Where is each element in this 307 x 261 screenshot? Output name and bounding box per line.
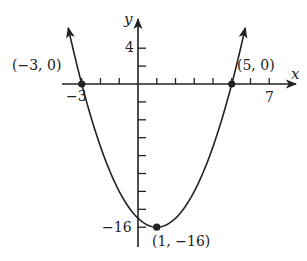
x-axis-ticks <box>82 78 270 84</box>
parabola-curve <box>68 28 245 227</box>
data-point <box>78 80 85 87</box>
y-tick-label-neg16: −16 <box>102 219 132 235</box>
marked-points <box>78 80 235 230</box>
x-tick-label-7: 7 <box>265 89 274 105</box>
point-label-vertex: (1, −16) <box>152 233 210 249</box>
parabola-chart: x y −3 7 4 −16 (−3, 0) (5, 0) (1, −16) <box>0 0 307 261</box>
y-tick-label-4: 4 <box>125 39 134 55</box>
y-axis-label: y <box>123 10 133 28</box>
data-point <box>153 224 160 231</box>
point-label-right-root: (5, 0) <box>237 57 275 73</box>
data-point <box>228 80 235 87</box>
y-axis-ticks <box>138 48 146 227</box>
x-axis-label: x <box>291 65 300 83</box>
x-tick-label-neg3: −3 <box>66 88 87 104</box>
point-label-left-root: (−3, 0) <box>12 57 61 73</box>
